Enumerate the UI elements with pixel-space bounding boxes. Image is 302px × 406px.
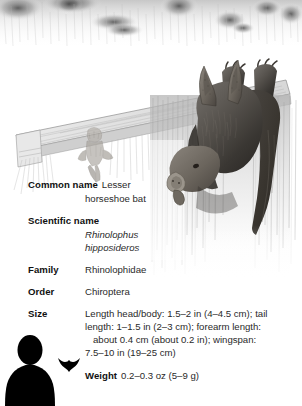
family-value: Rhinolophidae: [85, 263, 292, 276]
size-label: Size: [28, 307, 85, 320]
family-label: Family: [28, 263, 85, 276]
fact-row-weight: Weight 0.2–0.3 oz (5–9 g): [0, 369, 302, 382]
size-value: Length head/body: 1.5–2 in (4–4.5 cm); t…: [85, 307, 292, 360]
cave-ceiling: [0, 0, 302, 48]
size-value-line1: Length head/body: 1.5–2 in (4–4.5 cm); t…: [85, 308, 267, 319]
bat-feet: [226, 59, 277, 72]
common-name-value-line1: Lesser: [102, 179, 131, 190]
fact-row-order: Order Chiroptera: [0, 285, 302, 298]
fact-row-size: Size Length head/body: 1.5–2 in (4–4.5 c…: [0, 307, 302, 360]
bat-ear-left: [199, 66, 216, 106]
size-value-line4: 7.5–10 in (19–25 cm): [85, 347, 176, 358]
fact-row-scientific-name: Scientific name Rhinolophus hipposideros: [0, 214, 302, 254]
common-name-value-line2: horseshoe bat: [28, 192, 146, 205]
order-label: Order: [28, 285, 85, 298]
common-name-label: Common name: [28, 179, 98, 190]
fact-row-family: Family Rhinolophidae: [0, 263, 302, 276]
bat-eye: [192, 163, 199, 169]
fact-row-common-name: Common nameLesser horseshoe bat: [0, 178, 302, 205]
background-bat: [78, 128, 113, 183]
size-value-line3: about 0.4 cm (about 0.2 in); wingspan:: [85, 333, 292, 346]
weight-label: Weight: [85, 369, 117, 382]
species-factsheet: Common nameLesser horseshoe bat Scientif…: [0, 178, 302, 382]
scientific-name-value-line1: Rhinolophus: [28, 228, 292, 241]
weight-value: 0.2–0.3 oz (5–9 g): [121, 369, 292, 382]
bat-ear-right: [228, 60, 242, 104]
scientific-name-label: Scientific name: [28, 214, 292, 227]
bat-body: [196, 81, 262, 173]
order-value: Chiroptera: [85, 285, 292, 298]
size-value-line2: length: 1–1.5 in (2–3 cm); forearm lengt…: [85, 321, 261, 332]
scientific-name-value-line2: hipposideros: [28, 241, 292, 254]
wooden-beam: [16, 80, 291, 167]
